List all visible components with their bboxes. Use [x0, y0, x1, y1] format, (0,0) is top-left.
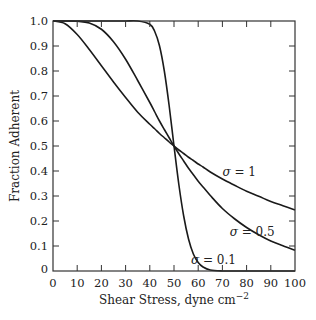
x-tick-label: 70 [215, 276, 230, 290]
x-axis-label: Shear Stress, dyne cm−2 [99, 291, 249, 307]
y-tick-label: 0.4 [30, 164, 48, 178]
x-tick-label: 40 [142, 276, 157, 290]
x-tick-label: 50 [167, 276, 182, 290]
x-tick-label: 0 [49, 276, 56, 290]
x-tick-label: 80 [239, 276, 254, 290]
x-axis-label-exponent: −2 [236, 291, 249, 301]
y-tick-label: 0.6 [30, 114, 48, 128]
series-annotation: σ = 0.5 [230, 225, 275, 239]
x-axis-label-main: Shear Stress, dyne cm [99, 293, 236, 307]
chart: 010203040506070809010000.10.20.30.40.50.… [0, 0, 316, 320]
y-tick-label: 0.8 [30, 64, 48, 78]
x-tick-label: 10 [70, 276, 85, 290]
annotations-layer: σ = 1σ = 0.5σ = 0.1 [191, 165, 275, 267]
x-tick-label: 100 [284, 276, 306, 290]
x-tick-label: 30 [118, 276, 133, 290]
y-tick-label: 0.7 [30, 89, 48, 103]
y-tick-label: 0.1 [30, 239, 48, 253]
x-tick-label: 60 [191, 276, 206, 290]
y-tick-label: 0 [41, 262, 48, 276]
series-annotation: σ = 0.1 [191, 253, 236, 267]
series-line-2 [53, 21, 295, 250]
tick-labels-layer: 010203040506070809010000.10.20.30.40.50.… [30, 14, 306, 290]
y-tick-label: 0.2 [30, 214, 48, 228]
y-tick-label: 1.0 [30, 14, 48, 28]
y-axis-label: Fraction Adherent [8, 90, 22, 202]
series-line-1 [53, 21, 295, 210]
series-annotation: σ = 1 [222, 165, 256, 179]
x-tick-label: 20 [94, 276, 109, 290]
y-tick-label: 0.5 [30, 139, 48, 153]
x-tick-label: 90 [263, 276, 278, 290]
y-tick-label: 0.3 [30, 189, 48, 203]
y-tick-label: 0.9 [30, 39, 48, 53]
